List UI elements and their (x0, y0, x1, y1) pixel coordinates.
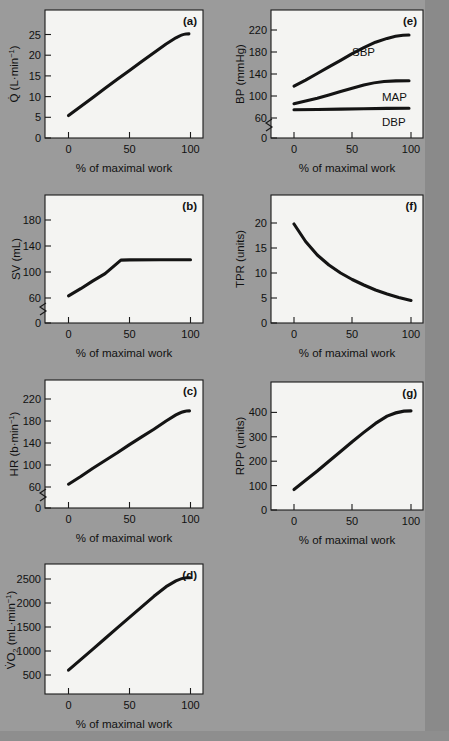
panel-g-xlabel: % of maximal work (299, 534, 396, 546)
panel-c-ylabel: HR (b·min−1) (7, 411, 20, 476)
panel-b-xtick-100: 100 (181, 328, 199, 340)
panel-g-ylabel: RPP (units) (234, 417, 246, 476)
panel-g-ytick-100: 100 (249, 480, 267, 492)
panel-c-xtick-100: 100 (181, 513, 199, 525)
panel-c-plot-background (45, 380, 203, 508)
panel-a-xtick-0: 0 (65, 143, 71, 155)
panel-c-xtick-50: 50 (123, 513, 135, 525)
panel-e-xlabel: % of maximal work (299, 162, 396, 174)
panel-c-xlabel: % of maximal work (76, 532, 173, 544)
page-edge-shadow-right (425, 0, 449, 741)
panel-b-ytick-0: 0 (35, 317, 41, 329)
panel-d-plot-background (45, 564, 203, 694)
panel-b-ytick-140: 140 (23, 240, 41, 252)
panel-a-ytick-0: 0 (35, 132, 41, 144)
panel-b-ylabel: SV (mL) (10, 238, 22, 280)
panel-c-ytick-180: 180 (23, 415, 41, 427)
panel-a-xtick-100: 100 (181, 143, 199, 155)
panel-g-xtick-50: 50 (346, 515, 358, 527)
panel-g-ytick-400: 400 (249, 406, 267, 418)
panel-c-ytick-100: 100 (23, 459, 41, 471)
panel-e-ytick-100: 100 (249, 90, 267, 102)
panel-f-ytick-5: 5 (261, 292, 267, 304)
panel-b-xlabel: % of maximal work (76, 347, 173, 359)
svg-text:Q̇ (L·min−1): Q̇ (L·min−1) (7, 45, 20, 102)
panel-e-xtick-100: 100 (402, 143, 420, 155)
panel-d-ytick-500: 500 (23, 669, 41, 681)
panel-b-xtick-0: 0 (65, 328, 71, 340)
panel-c-heart-rate: 0 60 100 140 180 220 0 50 100 (c) HR (b·… (0, 368, 225, 556)
panel-a-xlabel: % of maximal work (76, 162, 173, 174)
panel-e-blood-pressure: 0 60 100 140 180 220 0 50 100 (e) SBP MA… (224, 0, 449, 185)
panel-f-ytick-10: 10 (255, 267, 267, 279)
panel-e-label-dbp: DBP (382, 116, 406, 128)
panel-d-ytick-2500: 2500 (17, 573, 41, 585)
page-edge-shadow-bottom (0, 731, 449, 741)
panel-b-ytick-100: 100 (23, 266, 41, 278)
panel-b-stroke-volume: 0 60 100 140 180 0 50 100 (b) SV (mL) % … (0, 185, 225, 370)
panel-f-letter: (f) (406, 200, 418, 212)
panel-g-letter: (g) (402, 387, 417, 399)
panel-f-ylabel: TPR (units) (234, 230, 246, 288)
panel-e-ytick-220: 220 (249, 24, 267, 36)
panel-b-xtick-50: 50 (123, 328, 135, 340)
panel-e-xtick-0: 0 (291, 143, 297, 155)
panel-f-xtick-0: 0 (291, 328, 297, 340)
panel-g-xtick-100: 100 (402, 515, 420, 527)
panel-a-letter: (a) (183, 15, 197, 27)
panel-f-xlabel: % of maximal work (299, 347, 396, 359)
panel-d-letter: (d) (182, 569, 197, 581)
panel-e-ytick-60: 60 (255, 112, 267, 124)
panel-f-xtick-100: 100 (402, 328, 420, 340)
panel-f-ytick-15: 15 (255, 242, 267, 254)
panel-d-vo2: 500 1000 1500 2000 2500 0 50 100 (d) V̇O… (0, 552, 225, 741)
panel-a-ytick-15: 15 (29, 70, 41, 82)
panel-d-ytick-2000: 2000 (17, 597, 41, 609)
panel-g-xtick-0: 0 (291, 515, 297, 527)
panel-f-xtick-50: 50 (346, 328, 358, 340)
panel-e-label-map: MAP (382, 91, 407, 103)
panel-g-ytick-200: 200 (249, 455, 267, 467)
panel-f-ytick-0: 0 (261, 317, 267, 329)
panel-d-ytick-1000: 1000 (17, 645, 41, 657)
panel-e-ylabel: BP (mmHg) (234, 44, 246, 104)
panel-c-ytick-140: 140 (23, 437, 41, 449)
panel-a-xtick-50: 50 (123, 143, 135, 155)
panel-a-ytick-20: 20 (29, 49, 41, 61)
panel-g-ytick-0: 0 (261, 504, 267, 516)
panel-f-ytick-20: 20 (255, 217, 267, 229)
panel-g-rpp: 0 100 200 300 400 0 50 100 (g) RPP (unit… (224, 368, 449, 556)
panel-a-ytick-10: 10 (29, 91, 41, 103)
panel-a-ytick-25: 25 (29, 29, 41, 41)
panel-c-ytick-0: 0 (35, 502, 41, 514)
panel-c-letter: (c) (183, 385, 197, 397)
panel-b-letter: (b) (182, 200, 197, 212)
panel-c-ytick-220: 220 (23, 393, 41, 405)
panel-c-ytick-60: 60 (29, 481, 41, 493)
panel-d-xtick-100: 100 (181, 699, 199, 711)
panel-a-ytick-5: 5 (35, 111, 41, 123)
panel-g-ytick-300: 300 (249, 431, 267, 443)
panel-e-label-sbp: SBP (352, 46, 375, 58)
panel-f-plot-background (271, 195, 423, 323)
panel-d-ytick-1500: 1500 (17, 621, 41, 633)
panel-e-ytick-180: 180 (249, 46, 267, 58)
svg-text:HR (b·min−1): HR (b·min−1) (7, 411, 20, 476)
panel-d-xtick-0: 0 (65, 699, 71, 711)
panel-e-curve-dbp (294, 108, 409, 109)
figure-root: 0 5 10 15 20 25 0 50 100 (a) Q̇ (L·min−1… (0, 0, 449, 741)
panel-a-cardiac-output: 0 5 10 15 20 25 0 50 100 (a) Q̇ (L·min−1… (0, 0, 225, 185)
panel-b-ytick-180: 180 (23, 214, 41, 226)
panel-e-letter: (e) (403, 15, 417, 27)
panel-e-xtick-50: 50 (346, 143, 358, 155)
panel-b-ytick-60: 60 (29, 292, 41, 304)
panel-d-xlabel: % of maximal work (76, 718, 173, 730)
panel-d-xtick-50: 50 (123, 699, 135, 711)
panel-e-ytick-0: 0 (261, 132, 267, 144)
panel-e-ytick-140: 140 (249, 68, 267, 80)
panel-c-xtick-0: 0 (65, 513, 71, 525)
panel-f-tpr: 0 5 10 15 20 0 50 100 (f) TPR (units) % … (224, 185, 449, 370)
panel-a-ylabel: Q̇ (L·min−1) (7, 45, 20, 102)
